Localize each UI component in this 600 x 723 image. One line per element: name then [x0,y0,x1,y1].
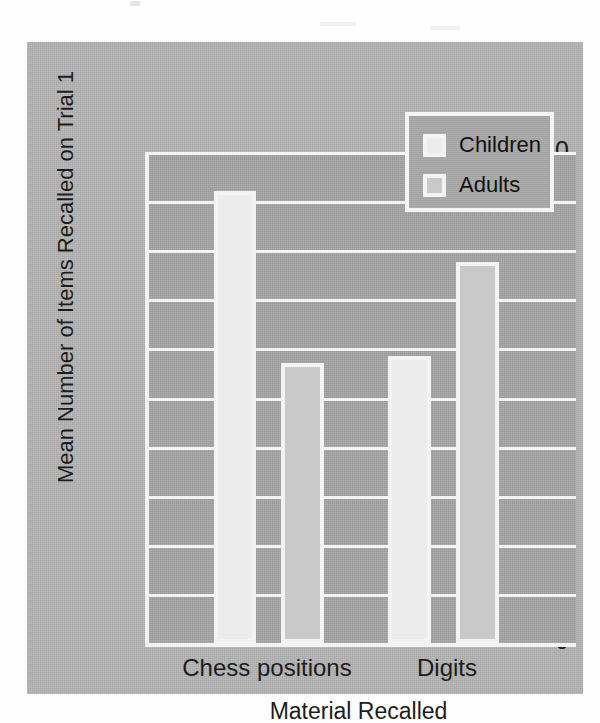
legend-label-children: Children [459,134,541,156]
scan-artifact-speck [430,26,460,30]
chart-figure-panel: Mean Number of Items Recalled on Trial 1… [27,42,583,694]
bar-children-chess-positions[interactable] [214,191,256,643]
legend-item-children[interactable]: Children [423,125,550,165]
x-tick-label-digits: Digits [337,654,557,682]
scanned-page: Mean Number of Items Recalled on Trial 1… [0,0,600,723]
x-axis-title: Material Recalled [145,698,572,723]
legend-label-adults: Adults [459,174,520,196]
legend-item-adults[interactable]: Adults [423,165,550,205]
chart-legend: Children Adults [405,112,554,212]
legend-swatch-children-icon [423,134,446,157]
bar-adults-digits[interactable] [456,262,499,643]
y-axis-title: Mean Number of Items Recalled on Trial 1 [53,42,79,512]
bar-children-digits[interactable] [388,356,431,643]
plot-area [145,152,576,647]
scan-artifact-speck [320,22,356,26]
scan-artifact-speck [130,1,140,6]
legend-swatch-adults-icon [423,174,446,197]
bar-adults-chess-positions[interactable] [281,363,324,643]
